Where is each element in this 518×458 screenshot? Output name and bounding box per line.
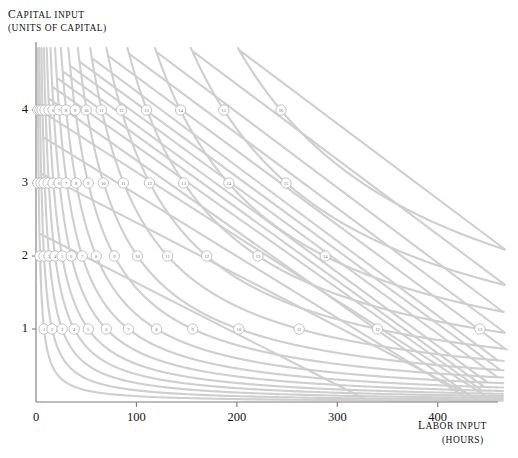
curve-label-13-at-capital-2: 13 (253, 251, 263, 261)
curve-label-9-at-capital-1: 9 (187, 324, 197, 334)
curve-label-3-at-capital-1: 3 (57, 324, 67, 334)
curve-label-7-at-capital-2: 7 (77, 251, 87, 261)
curve-label-9-at-capital-2: 9 (109, 251, 119, 261)
y-tick-label-4: 4 (10, 102, 28, 117)
marker-label: 10 (135, 254, 140, 259)
curve-label-11-at-capital-1: 11 (294, 324, 304, 334)
marker-label: 15 (222, 108, 227, 113)
curve-label-12-at-capital-2: 12 (202, 251, 212, 261)
y-tick-label-2: 2 (10, 248, 28, 263)
curve-label-14-at-capital-3: 14 (224, 178, 234, 188)
curve-label-13-at-capital-1: 13 (475, 324, 485, 334)
x-tick-label-400: 400 (418, 410, 458, 425)
marker-label: 12 (147, 181, 152, 186)
marker-label: 11 (165, 254, 170, 259)
curve-label-10-at-capital-4: 10 (81, 105, 91, 115)
curve-label-11-at-capital-3: 11 (118, 178, 128, 188)
curve-label-16-at-capital-4: 16 (276, 105, 286, 115)
y-tick-label-1: 1 (10, 321, 28, 336)
curve-label-10-at-capital-3: 10 (98, 178, 108, 188)
isoquant-chart: CAPITAL INPUT (UNITS OF CAPITAL) LABOR I… (0, 0, 518, 458)
isoquant-curves (38, 48, 506, 401)
marker-label: 13 (181, 181, 186, 186)
curve-label-12-at-capital-4: 12 (116, 105, 126, 115)
curve-label-8-at-capital-1: 8 (151, 324, 161, 334)
marker-label: 13 (478, 327, 483, 332)
marker-label: 11 (121, 181, 126, 186)
marker-label: 16 (279, 108, 284, 113)
x-tick-label-0: 0 (16, 410, 56, 425)
curve-label-9-at-capital-4: 9 (70, 105, 80, 115)
x-tick-label-300: 300 (317, 410, 357, 425)
curve-label-14-at-capital-2: 14 (320, 251, 330, 261)
curve-label-9-at-capital-3: 9 (83, 178, 93, 188)
curve-label-11-at-capital-2: 11 (162, 251, 172, 261)
marker-label: 10 (237, 327, 242, 332)
curve-label-8-at-capital-2: 8 (91, 251, 101, 261)
curve-label-12-at-capital-1: 12 (372, 324, 382, 334)
marker-label: 13 (256, 254, 261, 259)
marker-label: 12 (119, 108, 124, 113)
isoquant-curve-16 (238, 48, 506, 250)
isoquant-curve-13 (128, 48, 506, 333)
marker-label: 11 (297, 327, 302, 332)
curve-label-10-at-capital-1: 10 (234, 324, 244, 334)
curve-label-6-at-capital-1: 6 (101, 324, 111, 334)
curve-label-8-at-capital-3: 8 (71, 178, 81, 188)
chart-canvas: 1234567891011121314151612345678910111213… (0, 0, 518, 458)
marker-label: 15 (284, 181, 289, 186)
curve-label-7-at-capital-3: 7 (61, 178, 71, 188)
marker-label: 14 (227, 181, 232, 186)
marker-label: 12 (204, 254, 209, 259)
marker-label: 13 (144, 108, 149, 113)
curve-label-14-at-capital-4: 14 (175, 105, 185, 115)
y-tick-label-3: 3 (10, 175, 28, 190)
curve-label-15-at-capital-3: 15 (281, 178, 291, 188)
marker-label: 14 (323, 254, 328, 259)
curve-label-13-at-capital-3: 13 (178, 178, 188, 188)
curve-label-4-at-capital-1: 4 (69, 324, 79, 334)
marker-label: 14 (178, 108, 183, 113)
curve-label-7-at-capital-1: 7 (123, 324, 133, 334)
marker-label: 12 (375, 327, 380, 332)
curve-label-13-at-capital-4: 13 (141, 105, 151, 115)
curve-label-11-at-capital-4: 11 (96, 105, 106, 115)
curve-label-12-at-capital-3: 12 (144, 178, 154, 188)
marker-label: 10 (84, 108, 89, 113)
marker-label: 11 (99, 108, 104, 113)
curve-label-10-at-capital-2: 10 (132, 251, 142, 261)
marker-label: 10 (101, 181, 106, 186)
x-tick-label-100: 100 (116, 410, 156, 425)
isoquant-curve-14 (155, 48, 504, 312)
curve-label-15-at-capital-4: 15 (219, 105, 229, 115)
curve-label-6-at-capital-2: 6 (66, 251, 76, 261)
curve-label-5-at-capital-1: 5 (83, 324, 93, 334)
x-tick-label-200: 200 (217, 410, 257, 425)
curve-label-2-at-capital-1: 2 (47, 324, 57, 334)
